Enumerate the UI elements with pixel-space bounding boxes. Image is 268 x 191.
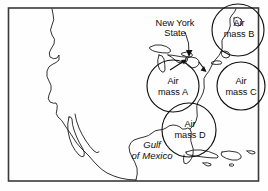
air-mass-a-label-line2: mass A	[158, 87, 189, 97]
air-mass-b-label-line2: mass B	[224, 29, 255, 39]
air-mass-d-label-line1: Air	[184, 119, 195, 129]
air-mass-d-label-line2: mass D	[174, 130, 206, 140]
air-mass-c-label-line1: Air	[235, 76, 246, 86]
air-mass-b-label-line1: Air	[233, 18, 244, 28]
new-york-label-line1: New York	[156, 18, 195, 28]
gulf-of-mexico-label-line1: Gulf	[143, 139, 162, 150]
weather-map-figure: New York State Air mass A Air mass B Air…	[0, 0, 268, 191]
new-york-label-line2: State	[164, 28, 185, 38]
air-mass-a-label-line1: Air	[167, 76, 178, 86]
air-mass-c-label-line2: mass C	[225, 87, 257, 97]
map-canvas: New York State Air mass A Air mass B Air…	[0, 0, 268, 191]
gulf-of-mexico-label-line2: of Mexico	[131, 150, 173, 161]
